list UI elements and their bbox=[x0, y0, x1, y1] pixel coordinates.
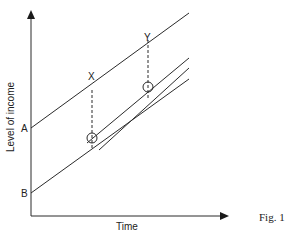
y-axis-label: Level of income bbox=[5, 82, 16, 152]
intercept-label-A: A bbox=[21, 123, 28, 134]
line-from-B bbox=[31, 79, 189, 193]
lower-middle-line bbox=[99, 68, 189, 150]
income-diagram: X Y A B Level of income Time Fig. 1 bbox=[0, 0, 292, 239]
upper-middle-line bbox=[87, 58, 189, 143]
line-from-A bbox=[31, 13, 189, 128]
figure-caption: Fig. 1 bbox=[259, 211, 285, 223]
intercept-label-B: B bbox=[21, 188, 28, 199]
y-axis-arrow-icon bbox=[27, 10, 35, 19]
x-axis-label: Time bbox=[116, 221, 138, 232]
point-label-Y: Y bbox=[144, 32, 151, 43]
point-label-X: X bbox=[88, 71, 95, 82]
x-axis-arrow-icon bbox=[220, 212, 229, 220]
